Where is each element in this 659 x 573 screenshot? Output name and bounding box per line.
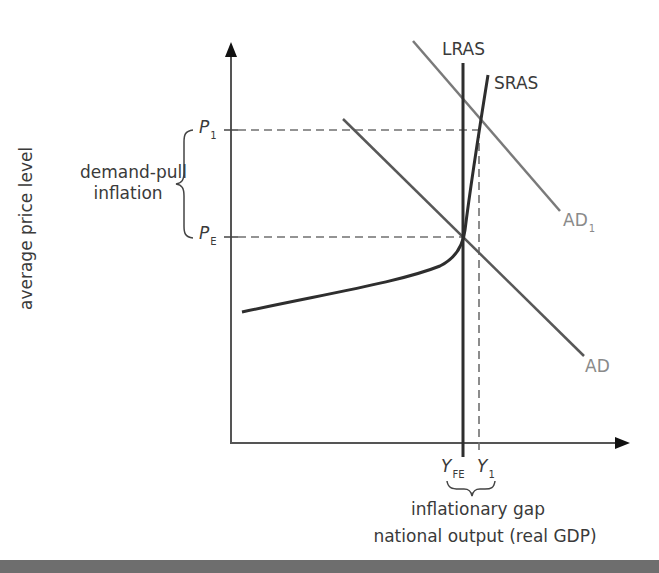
demand-pull-line1: demand-pull	[80, 162, 176, 183]
y1-label-sub: 1	[488, 469, 494, 480]
p1-label: P1	[199, 117, 217, 137]
dashed-guides	[238, 130, 479, 451]
sras-label: SRAS	[494, 73, 538, 93]
yfe-label: YFE	[441, 456, 464, 476]
y-axis	[225, 42, 237, 443]
inflationary-gap-label: inflationary gap	[388, 499, 568, 519]
pe-label: PE	[199, 223, 217, 243]
p1-label-main: P	[199, 117, 209, 137]
ad1-label: AD1	[563, 210, 595, 230]
ad1-curve	[413, 41, 560, 211]
x-axis-label: national output (real GDP)	[365, 526, 605, 546]
x-axis	[230, 437, 630, 449]
sras-curve	[242, 75, 488, 312]
yfe-label-main: Y	[441, 456, 451, 476]
yfe-label-sub: FE	[452, 469, 464, 480]
lras-label: LRAS	[442, 39, 485, 59]
y-axis-label: average price level	[16, 147, 36, 310]
ad1-label-sub: 1	[589, 223, 595, 234]
pe-label-main: P	[199, 223, 209, 243]
demand-pull-annotation: demand-pull inflation	[80, 162, 176, 204]
ad1-label-main: AD	[563, 210, 588, 230]
demand-pull-brace	[176, 130, 193, 238]
y1-label-main: Y	[477, 456, 487, 476]
bottom-bar	[0, 560, 659, 573]
inflationary-gap-brace	[447, 481, 495, 496]
demand-pull-line2: inflation	[80, 183, 176, 204]
pe-label-sub: E	[210, 236, 216, 247]
ad-as-diagram	[0, 0, 659, 573]
y1-label: Y1	[477, 456, 495, 476]
p1-label-sub: 1	[210, 130, 216, 141]
ad-label: AD	[585, 356, 610, 376]
